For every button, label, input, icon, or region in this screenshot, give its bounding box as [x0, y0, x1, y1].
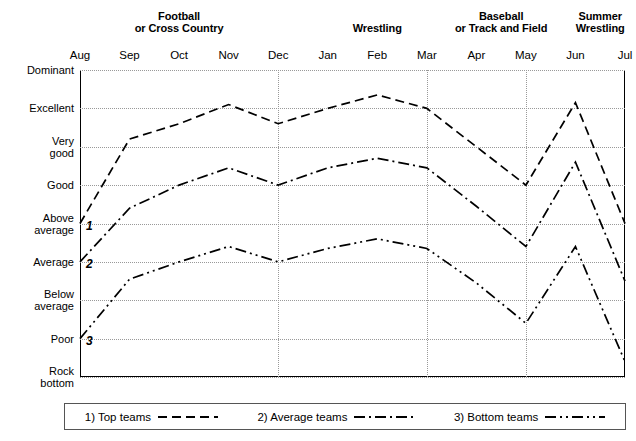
curve-marker-2: 2 — [86, 257, 93, 271]
legend-label: 1) Top teams — [85, 411, 151, 423]
legend-label: 3) Bottom teams — [454, 411, 538, 423]
month-label-feb: Feb — [355, 49, 399, 62]
y-axis-label: Belowaverage — [2, 288, 74, 312]
gridline — [80, 377, 625, 378]
month-label-oct: Oct — [157, 49, 201, 62]
legend-item: 3) Bottom teams — [454, 411, 605, 423]
month-label-jul: Jul — [603, 49, 636, 62]
plot-area — [80, 70, 625, 377]
legend-swatch-dashed — [158, 414, 218, 420]
month-label-dec: Dec — [256, 49, 300, 62]
month-label-may: May — [504, 49, 548, 62]
y-axis-label: Aboveaverage — [2, 212, 74, 236]
month-label-mar: Mar — [405, 49, 449, 62]
month-label-nov: Nov — [207, 49, 251, 62]
legend-item: 2) Average teams — [257, 411, 414, 423]
month-label-apr: Apr — [454, 49, 498, 62]
performance-chart: Footballor Cross CountryWrestlingBasebal… — [0, 0, 636, 441]
legend-swatch-dash-dot-dot — [545, 414, 605, 420]
season-header: Footballor Cross Country — [94, 10, 264, 34]
month-label-jan: Jan — [306, 49, 350, 62]
chart-legend: 1) Top teams2) Average teams3) Bottom te… — [64, 403, 626, 430]
month-label-aug: Aug — [58, 49, 102, 62]
month-label-jun: Jun — [553, 49, 597, 62]
month-label-sep: Sep — [108, 49, 152, 62]
y-axis-label: Dominant — [2, 64, 74, 76]
legend-item: 1) Top teams — [85, 411, 218, 423]
series-line-2 — [80, 158, 625, 281]
legend-swatch-dash-dot — [354, 414, 414, 420]
legend-label: 2) Average teams — [257, 411, 347, 423]
y-axis-label: Good — [2, 179, 74, 191]
series-lines — [80, 70, 625, 377]
series-line-3 — [80, 239, 625, 362]
y-axis-label: Rockbottom — [2, 365, 74, 389]
y-axis-label: Excellent — [2, 102, 74, 114]
curve-marker-3: 3 — [86, 334, 93, 348]
y-axis-label: Verygood — [2, 135, 74, 159]
curve-marker-1: 1 — [86, 219, 93, 233]
season-header: SummerWrestling — [515, 10, 636, 34]
series-line-1 — [80, 95, 625, 224]
y-axis-label: Poor — [2, 333, 74, 345]
y-axis-label: Average — [2, 256, 74, 268]
